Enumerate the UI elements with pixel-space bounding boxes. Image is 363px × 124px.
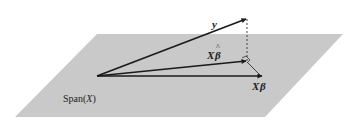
svg-text:X: X — [206, 49, 215, 61]
svg-text:^: ^ — [216, 43, 220, 52]
svg-text:X: X — [251, 80, 260, 92]
label-span-x: Span(X) — [63, 93, 96, 105]
svg-text:Span(X): Span(X) — [63, 93, 96, 105]
projection-diagram: y X β ^ X β Span(X) — [0, 0, 363, 124]
label-y: y — [210, 18, 217, 30]
label-x-beta: X β — [251, 80, 266, 92]
svg-text:β: β — [259, 80, 266, 92]
